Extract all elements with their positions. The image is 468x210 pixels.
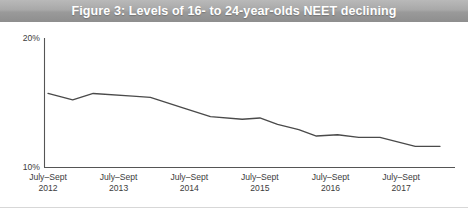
figure-bottom-divider	[0, 207, 468, 208]
page-title: Figure 3: Levels of 16- to 24-year-olds …	[72, 4, 397, 18]
y-axis-tick-label-top: 20%	[6, 33, 40, 43]
figure-title-bar: Figure 3: Levels of 16- to 24-year-olds …	[0, 0, 468, 22]
axes-group	[44, 38, 455, 168]
figure-container: Figure 3: Levels of 16- to 24-year-olds …	[0, 0, 468, 210]
series-group	[48, 93, 440, 146]
chart-plot-area: 20% 10% July–Sept 2012 July–Sept 2013 Ju…	[0, 22, 468, 210]
x-axis-tick-label: July–Sept 2017	[355, 172, 447, 194]
y-axis-tick-label-bottom: 10%	[6, 162, 40, 172]
neet-rate-line	[48, 93, 440, 146]
